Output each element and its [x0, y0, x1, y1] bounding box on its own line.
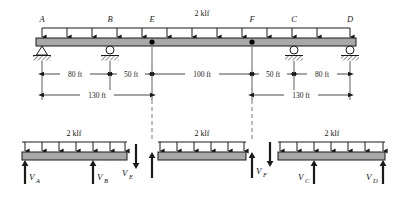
beam-body: [36, 38, 356, 46]
fbd2-load-label: 2 klf: [195, 129, 210, 138]
fbd2-beam-body: [158, 152, 246, 160]
dim-label-AB: 80 ft: [68, 70, 83, 79]
reaction-VD-sub: D: [372, 177, 378, 184]
point-label-E: E: [148, 14, 155, 24]
point-label-C: C: [291, 14, 297, 24]
dim-label-AE-total: 130 ft: [88, 91, 107, 100]
fbd3-beam-body: [278, 152, 385, 160]
dim-label-EF: 100 ft: [193, 70, 212, 79]
reaction-VC-sub: C: [305, 177, 310, 184]
point-label-F: F: [248, 14, 255, 24]
figure-canvas: A B E F C D 2 klf: [0, 0, 399, 200]
force-VE-sub: E: [128, 173, 133, 180]
point-label-B: B: [107, 14, 112, 24]
dim-label-BE: 50 ft: [124, 70, 139, 79]
dim-label-FD-total: 130 ft: [292, 91, 311, 100]
point-label-D: D: [346, 14, 354, 24]
fbd3-load-label: 2 klf: [325, 129, 340, 138]
fbd1-beam-body: [22, 152, 127, 160]
hinge-F: [249, 39, 254, 44]
hinge-E: [149, 39, 154, 44]
dim-label-CD: 80 ft: [315, 70, 330, 79]
point-label-A: A: [38, 14, 45, 24]
fbd1-load-label: 2 klf: [67, 129, 82, 138]
reaction-VB-sub: B: [104, 177, 108, 184]
dim-label-FC: 50 ft: [266, 70, 281, 79]
reaction-VA-sub: A: [35, 177, 40, 184]
main-load-label: 2 klf: [195, 9, 210, 18]
